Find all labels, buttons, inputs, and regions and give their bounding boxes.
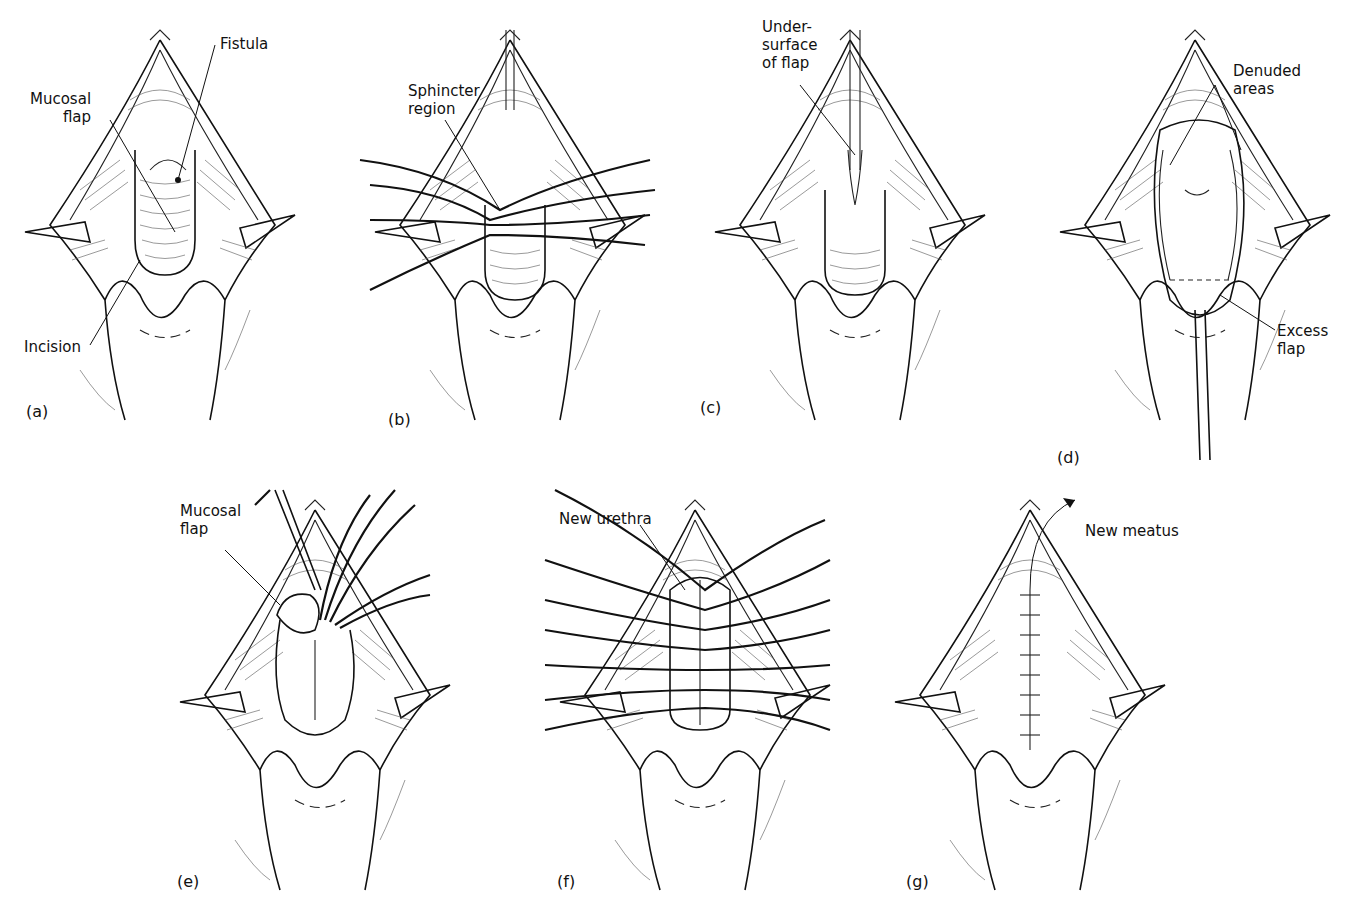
panel-d: Denuded areas Excess flap (d) bbox=[1045, 10, 1355, 460]
label-new-urethra: New urethra bbox=[559, 510, 652, 528]
label-excess-flap: Excess flap bbox=[1277, 322, 1328, 358]
label-incision: Incision bbox=[24, 338, 81, 356]
panel-a: Fistula Mucosal flap Incision (a) bbox=[10, 10, 330, 430]
panel-b: Sphincter region (b) bbox=[360, 10, 680, 430]
panel-tag-b: (b) bbox=[388, 410, 411, 429]
panel-g: New meatus (g) bbox=[880, 480, 1200, 900]
label-mucosal-flap: Mucosal flap bbox=[30, 90, 91, 126]
panel-d-illustration bbox=[1045, 10, 1355, 460]
panel-g-illustration bbox=[880, 480, 1200, 900]
label-new-meatus: New meatus bbox=[1085, 522, 1179, 540]
panel-b-illustration bbox=[360, 10, 680, 430]
label-undersurface-of-flap: Under- surface of flap bbox=[762, 18, 817, 72]
panel-tag-e: (e) bbox=[177, 872, 199, 891]
label-mucosal-flap-e: Mucosal flap bbox=[180, 502, 241, 538]
panel-tag-g: (g) bbox=[906, 872, 929, 891]
panel-tag-d: (d) bbox=[1057, 448, 1080, 467]
panel-e-illustration bbox=[165, 480, 495, 900]
label-sphincter-region: Sphincter region bbox=[408, 82, 480, 118]
panel-c-illustration bbox=[700, 10, 1020, 430]
panel-a-illustration bbox=[10, 10, 330, 430]
panel-f: New urethra (f) bbox=[545, 480, 865, 900]
panel-tag-a: (a) bbox=[26, 402, 48, 421]
label-fistula: Fistula bbox=[220, 35, 268, 53]
panel-e: Mucosal flap (e) bbox=[165, 480, 495, 900]
label-denuded-areas: Denuded areas bbox=[1233, 62, 1301, 98]
panel-tag-f: (f) bbox=[557, 872, 575, 891]
panel-tag-c: (c) bbox=[700, 398, 721, 417]
panel-f-illustration bbox=[545, 480, 865, 900]
panel-c: Under- surface of flap (c) bbox=[700, 10, 1020, 430]
